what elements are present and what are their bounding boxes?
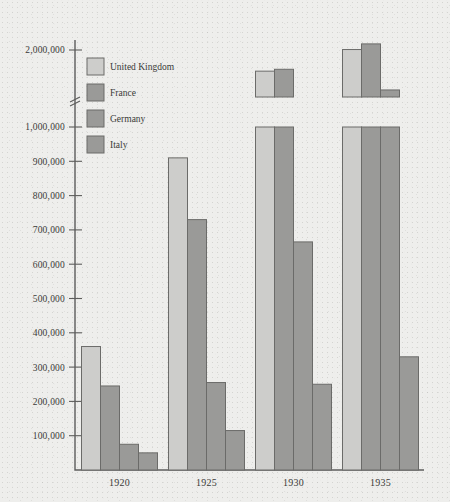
- legend-swatch: [87, 136, 104, 153]
- y-tick-label: 100,000: [33, 431, 65, 441]
- legend-swatch: [87, 110, 104, 127]
- bar: [400, 357, 419, 470]
- bar-segment-upper: [256, 71, 275, 97]
- bars-group: [82, 44, 419, 470]
- legend: United KingdomFranceGermanyItaly: [87, 58, 175, 153]
- bar-segment-upper: [362, 44, 381, 97]
- legend-label: United Kingdom: [110, 62, 175, 72]
- legend-swatch: [87, 84, 104, 101]
- bar: [207, 383, 226, 470]
- bar: [294, 242, 313, 470]
- bar-segment-upper: [275, 69, 294, 97]
- bar: [169, 158, 188, 470]
- bar: [188, 220, 207, 470]
- y-tick-label: 300,000: [33, 363, 65, 373]
- legend-label: Italy: [110, 140, 128, 150]
- bar: [226, 431, 245, 470]
- bar-segment-lower: [343, 127, 362, 470]
- y-tick-label: 900,000: [33, 157, 65, 167]
- legend-label: Germany: [110, 114, 146, 124]
- bar-segment-lower: [256, 127, 275, 470]
- x-axis-tick-label: 1920: [109, 477, 130, 488]
- bar-segment-lower: [275, 127, 294, 470]
- bar: [82, 347, 101, 470]
- y-tick-label: 700,000: [33, 225, 65, 235]
- bar: [120, 444, 139, 470]
- bar-segment-upper: [381, 90, 400, 97]
- x-axis-tick-label: 1925: [196, 477, 217, 488]
- y-tick-label: 1,000,000: [25, 122, 65, 132]
- y-tick-label: 400,000: [33, 328, 65, 338]
- legend-swatch: [87, 58, 104, 75]
- y-tick-label: 2,000,000: [25, 45, 65, 55]
- y-tick-label: 800,000: [33, 191, 65, 201]
- bar-segment-lower: [362, 127, 381, 470]
- x-axis-tick-label: 1935: [370, 477, 391, 488]
- y-tick-label: 500,000: [33, 294, 65, 304]
- y-tick-label: 200,000: [33, 397, 65, 407]
- bar-segment-lower: [381, 127, 400, 470]
- x-axis-tick-label: 1930: [283, 477, 304, 488]
- x-axis-labels: 1920192519301935: [109, 477, 391, 488]
- bar: [313, 384, 332, 470]
- bar: [101, 386, 120, 470]
- legend-label: France: [110, 88, 136, 98]
- bar: [139, 453, 158, 470]
- y-tick-label: 600,000: [33, 260, 65, 270]
- bar-segment-upper: [343, 50, 362, 97]
- bar-chart: 100,000200,000300,000400,000500,000600,0…: [0, 0, 450, 502]
